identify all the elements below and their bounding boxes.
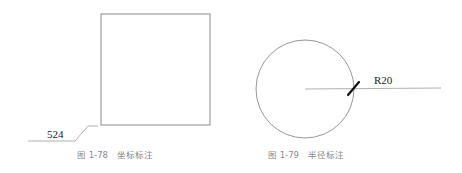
square-shape xyxy=(101,14,210,125)
figure-caption-1-79: 图 1-79 半径标注 xyxy=(268,150,344,160)
ordinate-dimension-value: 524 xyxy=(47,128,64,140)
radius-dimension-line xyxy=(305,88,441,89)
figure-caption-1-78: 图 1-78 坐标标注 xyxy=(77,150,153,160)
figure-radius-dimension: R20 图 1-79 半径标注 xyxy=(256,40,441,160)
drawing-canvas: 524 图 1-78 坐标标注 R20 图 1-79 半径标注 xyxy=(0,0,462,173)
figure-ordinate-dimension: 524 图 1-78 坐标标注 xyxy=(28,14,210,160)
radius-dimension-value: R20 xyxy=(374,74,393,86)
